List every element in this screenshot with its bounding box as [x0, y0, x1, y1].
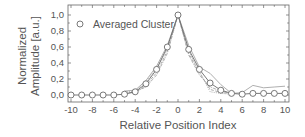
data-point-circle-marker [79, 92, 85, 98]
x-tick-label: -10 [64, 104, 78, 115]
x-tick-label: -2 [152, 104, 160, 115]
x-tick-label: 0 [175, 104, 180, 115]
x-tick-label: 6 [240, 104, 245, 115]
x-tick-label: 8 [261, 104, 266, 115]
legend: Averaged Cluster [77, 18, 174, 30]
data-point-circle-marker [89, 92, 95, 98]
legend-circle-marker-icon [77, 21, 83, 27]
data-point-circle-marker [100, 92, 106, 98]
x-tick-label: -6 [110, 104, 118, 115]
y-axis-title-line1: Normalized [16, 27, 28, 85]
x-tick-label: 10 [280, 104, 291, 115]
data-point-circle-marker [229, 90, 235, 96]
data-point-circle-marker [271, 90, 277, 96]
y-tick-label: 0,0 [51, 89, 64, 100]
data-point-circle-marker [207, 80, 213, 86]
data-point-circle-marker [122, 91, 128, 97]
data-point-circle-marker [261, 90, 267, 96]
y-axis-title: Normalized Amplitude [a.u.] [16, 16, 41, 96]
legend-label: Averaged Cluster [93, 18, 174, 30]
y-tick-label: 1,0 [51, 9, 64, 20]
data-point-circle-marker [239, 91, 245, 97]
y-tick-label: 0,4 [51, 57, 64, 68]
data-point-circle-marker [218, 87, 224, 93]
x-axis-title: Relative Position Index [120, 119, 237, 131]
x-tick-label: -8 [88, 104, 96, 115]
x-tick-label: 2 [197, 104, 202, 115]
data-point-circle-marker [250, 90, 256, 96]
data-point-circle-marker [111, 92, 117, 98]
data-point-circle-marker [68, 92, 74, 98]
data-point-circle-marker [186, 46, 192, 52]
data-point-circle-marker [164, 44, 170, 50]
data-point-circle-marker [196, 66, 202, 72]
y-axis-title-line2: Amplitude [a.u.] [29, 16, 41, 96]
x-tick-label: 4 [218, 104, 223, 115]
data-point-circle-marker [154, 66, 160, 72]
y-tick-label: 0,6 [51, 41, 64, 52]
data-point-circle-marker [282, 90, 288, 96]
data-point-circle-marker [143, 81, 149, 87]
y-tick-label: 0,8 [51, 25, 64, 36]
chart: -10-8-6-4-20246810 0,00,20,40,60,81,0 Av… [0, 0, 305, 137]
data-point-circle-marker [132, 89, 138, 95]
data-point-circle-marker [175, 12, 181, 18]
x-tick-label: -4 [131, 104, 139, 115]
y-tick-label: 0,2 [51, 73, 64, 84]
